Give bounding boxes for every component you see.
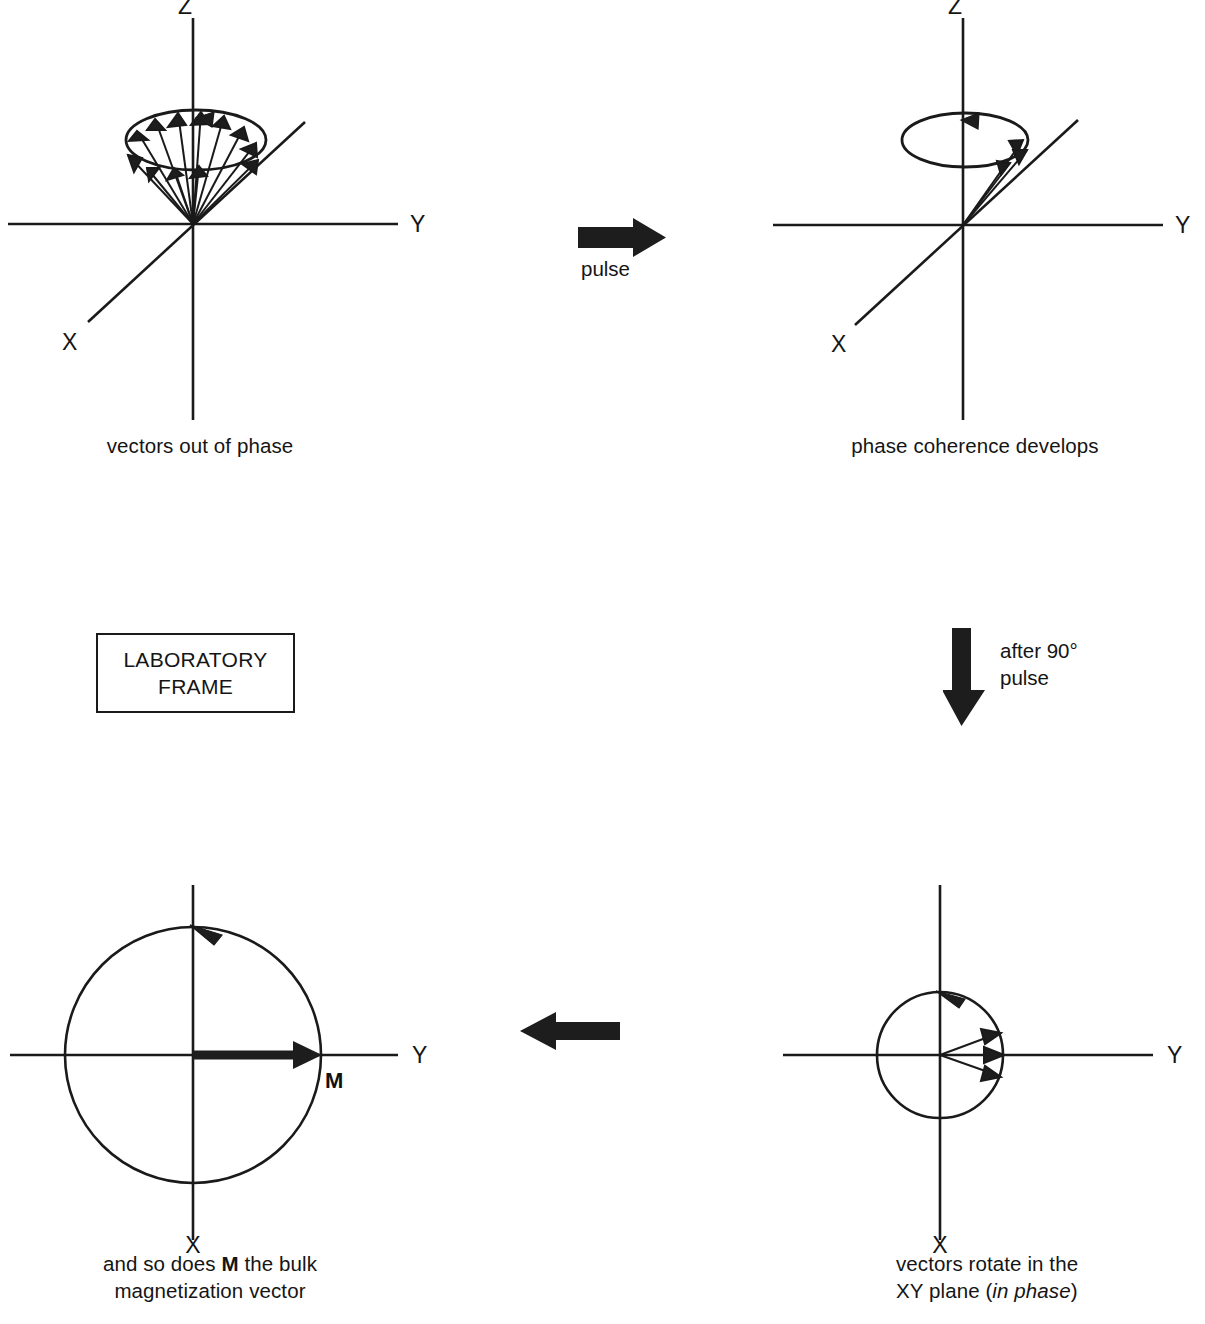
caption-line1-pre: and so does [103,1252,222,1275]
y-axis-label: Y [412,1042,427,1068]
caption-in-phase-italic: in phase [992,1279,1070,1302]
panel-vectors-out-of-phase: Z Y X [0,0,440,420]
pulse-arrow-right [578,218,668,258]
panel-bulk-magnetization: M Y X [0,855,440,1255]
magnetization-vector-M [193,1041,322,1069]
z-axis-label: Z [948,0,962,19]
panel-vectors-in-xy-plane: Y X [785,855,1205,1255]
caption-line2: magnetization vector [114,1279,305,1302]
x-axis-label: X [831,331,846,357]
left-arrow-icon [520,1012,620,1050]
down-arrow-icon [943,628,985,726]
coherent-vector-group [963,140,1027,225]
x-axis-label: X [62,329,77,355]
panel-phase-coherence: Z Y X [755,0,1205,420]
y-axis-label: Y [1175,212,1190,238]
caption-line1: vectors rotate in the [896,1252,1078,1275]
inphase-vector-group [940,1029,1004,1081]
y-axis-label: Y [410,211,425,237]
return-arrow-left [512,1010,622,1052]
z-axis-label: Z [178,0,192,19]
caption-phase-coherence: phase coherence develops [795,432,1155,459]
x-axis-line [855,120,1078,325]
figure-canvas: Z Y X vectors out of phase [0,0,1205,1324]
x-axis-line [88,122,305,322]
after-90-pulse-arrow-down [943,628,989,728]
caption-vectors-out-of-phase: vectors out of phase [30,432,370,459]
caption-M-bold: M [222,1252,239,1275]
y-axis-label: Y [1167,1042,1182,1068]
laboratory-frame-box: LABORATORY FRAME [96,633,295,713]
magnetization-vector-label: M [325,1068,343,1093]
caption-line1-post: the bulk [239,1252,317,1275]
pulse-arrow-label: pulse [581,255,630,282]
caption-vectors-in-xy-plane: vectors rotate in theXY plane (in phase) [896,1250,1205,1304]
caption-line2-pre: XY plane ( [896,1279,992,1302]
right-arrow-icon [578,218,666,257]
after-90-pulse-label: after 90° pulse [1000,637,1078,691]
caption-bulk-magnetization: and so does M the bulkmagnetization vect… [35,1250,385,1304]
caption-line2-post: ) [1071,1279,1078,1302]
